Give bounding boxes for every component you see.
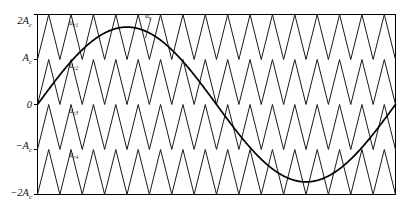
- pwm-carrier-figure: 2Ac Ac 0 −Ac −2Ac uc1 uc2 uc3: [0, 0, 404, 215]
- y-tick-label-0: 0: [27, 99, 33, 110]
- plot-canvas: 2Ac Ac 0 −Ac −2Ac uc1 uc2 uc3: [0, 0, 404, 215]
- figure-background: [0, 0, 404, 215]
